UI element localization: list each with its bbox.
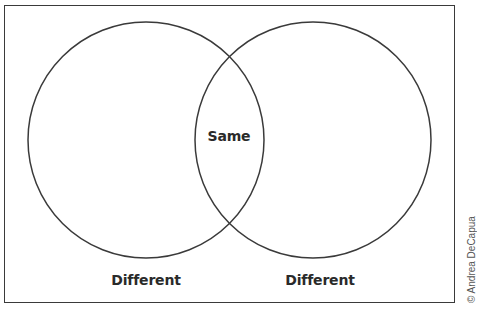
left-only-label: Different — [111, 272, 180, 288]
right-only-label: Different — [285, 272, 354, 288]
intersection-label: Same — [208, 128, 251, 144]
copyright-credit: © Andrea DeCapua — [466, 216, 477, 303]
